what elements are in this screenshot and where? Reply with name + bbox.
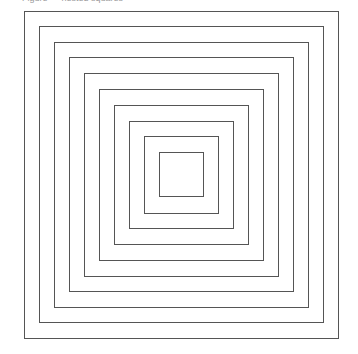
square-10 [159,152,204,197]
nested-squares-diagram [0,0,358,354]
